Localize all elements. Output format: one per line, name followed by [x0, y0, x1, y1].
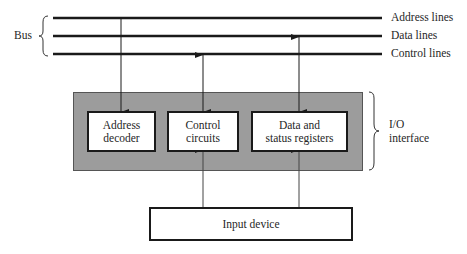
address-lines-label: Address lines — [391, 11, 453, 24]
io-interface-label-line2: interface — [389, 132, 429, 145]
data-status-registers-block: Data and status registers — [251, 111, 348, 152]
address-decoder-block: Address decoder — [87, 111, 156, 152]
data-lines-label: Data lines — [391, 29, 437, 42]
input-device-block: Input device — [149, 207, 353, 241]
control-circuits-line2: circuits — [185, 132, 220, 145]
address-decoder-line1: Address — [103, 119, 141, 132]
address-decoder-line2: decoder — [103, 132, 141, 145]
io-interface-label-line1: I/O — [389, 118, 404, 131]
input-device-label: Input device — [222, 218, 279, 231]
bus-label: Bus — [14, 29, 32, 42]
data-registers-line2: status registers — [265, 132, 333, 145]
control-circuits-line1: Control — [185, 119, 220, 132]
data-registers-line1: Data and — [265, 119, 333, 132]
control-lines-label: Control lines — [391, 47, 451, 60]
control-circuits-block: Control circuits — [167, 111, 239, 152]
